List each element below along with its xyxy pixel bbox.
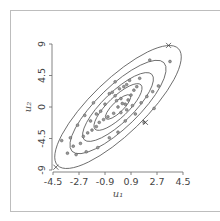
- sample-point: [112, 112, 115, 115]
- sample-point: [135, 85, 138, 88]
- extreme-point-marker: [53, 165, 58, 170]
- sample-point: [124, 103, 127, 106]
- sample-point: [108, 92, 111, 95]
- x-tick-label: -2.7: [70, 176, 89, 187]
- x-tick-label: -0.9: [96, 176, 115, 187]
- scatter-contour-chart: -4.5-2.7-0.90.92.74.5 94.50-4.5-9 u₁ u₂: [0, 0, 220, 221]
- sample-point: [169, 60, 172, 63]
- y-axis-ticks: 94.50-4.5-9: [36, 41, 52, 175]
- sample-point: [145, 95, 148, 98]
- sample-point: [125, 108, 128, 111]
- sample-point: [114, 94, 117, 97]
- sample-point: [72, 145, 75, 148]
- x-tick-label: 0.9: [123, 176, 138, 187]
- sample-point: [122, 85, 125, 88]
- sample-point: [151, 90, 154, 93]
- sample-point: [148, 59, 151, 62]
- sample-point: [83, 114, 86, 117]
- sample-point: [86, 132, 89, 135]
- sample-point: [66, 152, 69, 155]
- sample-point: [114, 80, 117, 83]
- sample-point: [60, 139, 63, 142]
- sample-point: [95, 125, 98, 128]
- x-axis-label: u₁: [113, 188, 123, 199]
- y-tick-label: -4.5: [36, 129, 47, 148]
- sample-point: [118, 87, 121, 90]
- sample-point: [104, 103, 107, 106]
- sample-point: [128, 79, 131, 82]
- sample-point: [124, 120, 127, 123]
- y-tick-label: 9: [36, 41, 47, 47]
- sample-point: [69, 136, 72, 139]
- sample-point: [89, 120, 92, 123]
- sample-point: [119, 111, 122, 114]
- sample-point: [79, 142, 82, 145]
- x-tick-label: -4.5: [44, 176, 63, 187]
- sample-point: [85, 150, 88, 153]
- y-tick-label: 4.5: [36, 68, 47, 83]
- sample-point: [140, 101, 143, 104]
- sample-point: [108, 136, 111, 139]
- sample-point: [98, 121, 101, 124]
- x-tick-label: 4.5: [175, 176, 190, 187]
- sample-point: [125, 83, 128, 86]
- sample-point: [111, 91, 114, 94]
- y-tick-label: -9: [36, 165, 47, 174]
- sample-point: [96, 146, 99, 149]
- sample-point: [95, 113, 98, 116]
- sample-point: [121, 102, 124, 105]
- sample-point: [91, 129, 94, 132]
- x-axis-ticks: -4.5-2.7-0.90.92.74.5: [44, 172, 191, 187]
- y-tick-label: 0: [36, 104, 47, 110]
- sample-point: [131, 104, 134, 107]
- sample-point: [99, 110, 102, 113]
- sample-point: [127, 99, 130, 102]
- sample-point: [153, 107, 156, 110]
- sample-point: [119, 97, 122, 100]
- sample-point: [117, 131, 120, 134]
- sample-point: [82, 135, 85, 138]
- sample-point: [132, 89, 135, 92]
- sample-point: [134, 113, 137, 116]
- sample-point: [76, 124, 79, 127]
- sample-point: [75, 153, 78, 156]
- sample-point: [106, 115, 109, 118]
- sample-point: [138, 77, 141, 80]
- sample-point: [117, 106, 120, 109]
- sample-point: [102, 118, 105, 121]
- sample-point: [92, 101, 95, 104]
- sample-point: [115, 99, 118, 102]
- x-tick-label: 2.7: [149, 176, 164, 187]
- sample-point: [130, 94, 133, 97]
- sample-point: [157, 85, 160, 88]
- y-axis-label: u₂: [22, 102, 33, 112]
